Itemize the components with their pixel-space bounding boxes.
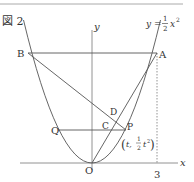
segment-BP (28, 53, 126, 130)
svg-text:t,: t, (126, 140, 132, 149)
y-axis-label: y (93, 21, 100, 32)
point-P-coordinate: ( t, 1 2 t 2 ) (121, 135, 155, 152)
svg-text:1: 1 (137, 135, 141, 142)
svg-text:1: 1 (163, 15, 167, 23)
point-Q-label: Q (51, 125, 59, 136)
svg-text:y =: y = (145, 19, 162, 29)
point-A-label: A (158, 49, 167, 60)
figure-caption: 図 2 (2, 15, 24, 28)
origin-label: O (85, 165, 93, 176)
parabola-diagram: 図 2 y x O 3 B A D C P Q y = 1 2 x 2 ( t,… (0, 0, 194, 182)
point-B-label: B (17, 48, 24, 59)
point-P-label: P (127, 122, 133, 132)
svg-text:2: 2 (176, 16, 180, 23)
parabola-equation: y = 1 2 x 2 (145, 15, 180, 33)
svg-text:x: x (170, 19, 175, 29)
svg-text:2: 2 (163, 25, 167, 33)
x-tick-3: 3 (154, 169, 160, 180)
x-axis-label: x (180, 157, 186, 168)
svg-text:(: ( (121, 138, 126, 152)
point-C-label: C (102, 121, 109, 131)
point-D-label: D (110, 107, 117, 117)
svg-text:): ) (150, 138, 155, 152)
svg-text:2: 2 (137, 144, 141, 151)
